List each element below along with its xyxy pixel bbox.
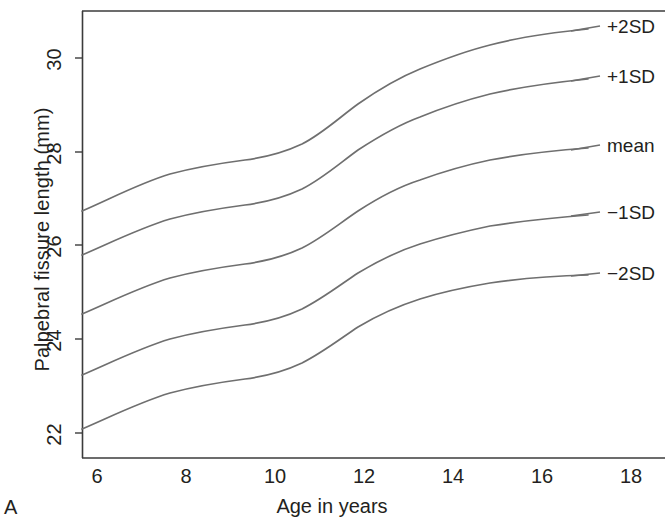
y-tick-label-30: 30 [43, 38, 66, 82]
series-label-minus1sd: −1SD [607, 202, 655, 224]
series-label-minus2sd: −2SD [607, 263, 655, 285]
x-axis-title: Age in years [82, 495, 582, 518]
curve-minus1sd [82, 215, 588, 375]
curve-plus1sd [82, 79, 588, 255]
x-tick-label-14: 14 [423, 465, 483, 488]
x-tick-label-12: 12 [334, 465, 394, 488]
x-tick-label-18: 18 [601, 465, 661, 488]
y-tick-label-28: 28 [43, 132, 66, 176]
series-label-mean: mean [607, 135, 655, 157]
label-leader-lines [571, 26, 600, 276]
y-tick-label-24: 24 [43, 319, 66, 363]
x-tick-label-10: 10 [245, 465, 305, 488]
y-tick-marks [75, 58, 82, 433]
series-label-plus1sd: +1SD [607, 66, 655, 88]
x-tick-label-16: 16 [512, 465, 572, 488]
y-tick-label-22: 22 [43, 413, 66, 457]
chart-plot-area [0, 0, 665, 530]
x-tick-label-8: 8 [156, 465, 216, 488]
x-tick-label-6: 6 [67, 465, 127, 488]
figure-panel-a: Palpebral fissure length (mm) 22 24 26 2… [0, 0, 665, 530]
curve-minus2sd [82, 275, 588, 429]
panel-letter: A [4, 496, 17, 519]
curve-plus2sd [82, 29, 588, 211]
series-label-plus2sd: +2SD [607, 16, 655, 38]
y-tick-label-26: 26 [43, 225, 66, 269]
